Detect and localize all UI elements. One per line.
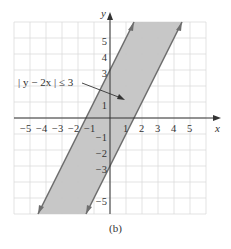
y-tick-label: −1: [96, 132, 107, 143]
x-tick-label: −3: [52, 123, 63, 134]
y-tick-label: 4: [102, 52, 108, 63]
x-axis-label: x: [214, 122, 220, 134]
y-tick-label: 3: [102, 68, 107, 79]
figure-caption: (b): [0, 222, 231, 234]
y-tick-label: 1: [102, 100, 107, 111]
arrowhead-icon: [128, 22, 134, 31]
y-axis-arrow-icon: [107, 12, 113, 20]
x-tick-label: 2: [139, 123, 144, 134]
inequality-annotation: | y − 2x | ≤ 3: [18, 76, 74, 88]
x-tick-label: 3: [155, 123, 160, 134]
x-tick-label: 5: [187, 123, 192, 134]
x-tick-label: 4: [171, 123, 177, 134]
y-tick-label: −2: [96, 148, 107, 159]
y-axis-label: y: [100, 7, 106, 19]
y-tick-label: −5: [96, 196, 107, 207]
graph-canvas: x y −5 −4 −3 −2 −1 1 2 3 4 5 5 4 3 1 −1 …: [0, 0, 231, 249]
x-tick-label: 1: [123, 123, 128, 134]
y-tick-label: −3: [96, 164, 107, 175]
x-tick-label: −2: [68, 123, 79, 134]
x-tick-label: −5: [20, 123, 31, 134]
x-axis-arrow-icon: [213, 115, 221, 121]
x-tick-label: −4: [36, 123, 48, 134]
arrowhead-icon: [86, 205, 92, 214]
inequality-graph: x y −5 −4 −3 −2 −1 1 2 3 4 5 5 4 3 1 −1 …: [0, 0, 231, 249]
y-tick-label: 5: [102, 36, 107, 47]
x-tick-label: −1: [84, 123, 95, 134]
